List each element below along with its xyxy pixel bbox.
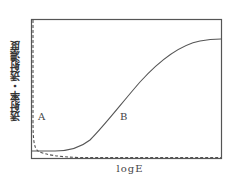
plot-frame [32, 20, 222, 159]
chart-plot [0, 0, 237, 184]
annotation-b: B [120, 111, 127, 122]
annotation-a: A [38, 111, 45, 122]
y-axis-label: 透射率・透射濃度 [8, 36, 22, 126]
series-a-dashed-curve [33, 20, 221, 158]
x-axis-label: logE [100, 163, 160, 174]
series-b-solid-curve [32, 39, 221, 151]
